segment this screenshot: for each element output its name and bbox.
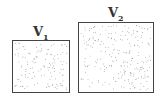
particle-dot <box>63 69 64 70</box>
particle-dot <box>98 39 99 40</box>
particle-dot <box>122 75 123 76</box>
particle-dot <box>121 35 122 36</box>
particle-dot <box>137 63 138 64</box>
particle-dot <box>47 53 48 54</box>
particle-dot <box>89 30 90 31</box>
particle-dot <box>62 85 63 86</box>
particle-dot <box>87 44 88 45</box>
particle-dot <box>138 55 139 56</box>
particle-dot <box>128 79 129 80</box>
particle-dot <box>98 82 99 83</box>
particle-dot <box>43 65 44 66</box>
particle-dot <box>40 69 41 70</box>
particle-dot <box>108 26 109 27</box>
particle-dot <box>122 31 123 32</box>
particle-dot <box>111 38 112 39</box>
particle-dot <box>142 66 143 67</box>
particle-dot <box>136 67 137 68</box>
particle-dot <box>58 58 59 59</box>
particle-dot <box>128 81 129 82</box>
particle-dot <box>88 79 89 80</box>
particle-dot <box>135 37 136 38</box>
particle-dot <box>103 64 104 65</box>
particle-dot <box>32 68 33 69</box>
particle-dot <box>100 34 101 35</box>
particles-layer <box>0 0 160 98</box>
particle-dot <box>131 35 132 36</box>
particle-dot <box>140 89 141 90</box>
particle-dot <box>62 45 63 46</box>
particle-dot <box>100 44 101 45</box>
particle-dot <box>54 60 55 61</box>
particle-dot <box>27 64 28 65</box>
particle-dot <box>15 85 16 86</box>
particle-dot <box>124 70 125 71</box>
particle-dot <box>48 67 49 68</box>
particle-dot <box>93 32 94 33</box>
particle-dot <box>115 32 116 33</box>
particle-dot <box>121 65 122 66</box>
particle-dot <box>48 49 49 50</box>
particle-dot <box>95 66 96 67</box>
particle-dot <box>19 48 20 49</box>
particle-dot <box>32 61 33 62</box>
particle-dot <box>121 86 122 87</box>
particle-dot <box>104 69 105 70</box>
particle-dot <box>61 44 62 45</box>
particle-dot <box>30 52 31 53</box>
particle-dot <box>127 66 128 67</box>
particle-dot <box>15 54 16 55</box>
particle-dot <box>36 47 37 48</box>
particle-dot <box>51 54 52 55</box>
particle-dot <box>140 69 141 70</box>
particle-dot <box>93 38 94 39</box>
particle-dot <box>36 52 37 53</box>
particle-dot <box>136 78 137 79</box>
particle-dot <box>106 67 107 68</box>
particle-dot <box>81 33 82 34</box>
particle-dot <box>49 67 50 68</box>
particle-dot <box>116 40 117 41</box>
particle-dot <box>113 79 114 80</box>
particle-dot <box>122 40 123 41</box>
particle-dot <box>131 84 132 85</box>
particle-dot <box>137 69 138 70</box>
particle-dot <box>60 54 61 55</box>
particle-dot <box>84 43 85 44</box>
particle-dot <box>51 76 52 77</box>
particle-dot <box>62 75 63 76</box>
particle-dot <box>27 77 28 78</box>
particle-dot <box>41 75 42 76</box>
particle-dot <box>138 52 139 53</box>
particle-dot <box>127 39 128 40</box>
particle-dot <box>63 61 64 62</box>
particle-dot <box>149 56 150 57</box>
particle-dot <box>124 80 125 81</box>
particle-dot <box>134 45 135 46</box>
particle-dot <box>149 67 150 68</box>
particle-dot <box>49 86 50 87</box>
particle-dot <box>126 52 127 53</box>
particle-dot <box>101 51 102 52</box>
particle-dot <box>133 74 134 75</box>
particle-dot <box>137 31 138 32</box>
particle-dot <box>88 45 89 46</box>
particle-dot <box>124 72 125 73</box>
particle-dot <box>98 80 99 81</box>
particle-dot <box>133 86 134 87</box>
particle-dot <box>133 33 134 34</box>
particle-dot <box>32 78 33 79</box>
particle-dot <box>115 57 116 58</box>
particle-dot <box>113 44 114 45</box>
particle-dot <box>23 46 24 47</box>
particle-dot <box>148 77 149 78</box>
particle-dot <box>25 77 26 78</box>
particle-dot <box>89 28 90 29</box>
particle-dot <box>90 56 91 57</box>
particle-dot <box>15 43 16 44</box>
particle-dot <box>140 83 141 84</box>
particle-dot <box>145 57 146 58</box>
particle-dot <box>61 85 62 86</box>
particle-dot <box>142 42 143 43</box>
particle-dot <box>144 28 145 29</box>
